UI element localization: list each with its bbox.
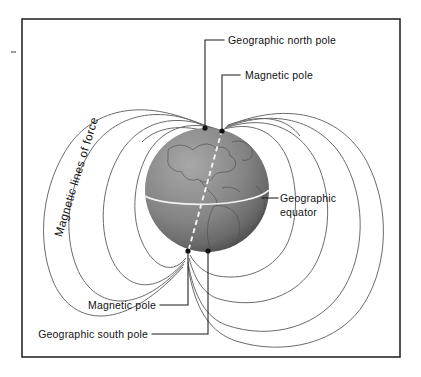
earth-magnetic-field-diagram: Geographic north pole Magnetic pole Geog…	[0, 0, 421, 377]
label-magnetic-lines-of-force: Magnetic lines of force	[52, 116, 100, 238]
label-geographic-south-pole: Geographic south pole	[38, 328, 148, 340]
leader-geographic-north-pole	[205, 40, 224, 128]
label-geographic-equator-line1: Geographic	[280, 192, 336, 204]
leader-magnetic-pole-south	[160, 251, 188, 305]
label-geographic-north-pole: Geographic north pole	[228, 34, 336, 46]
label-magnetic-pole-north: Magnetic pole	[245, 69, 313, 81]
label-magnetic-pole-south: Magnetic pole	[88, 299, 156, 311]
diagram-canvas: Geographic north pole Magnetic pole Geog…	[0, 0, 421, 377]
globe-icon	[145, 128, 269, 258]
label-geographic-equator-line2: equator	[280, 206, 317, 218]
